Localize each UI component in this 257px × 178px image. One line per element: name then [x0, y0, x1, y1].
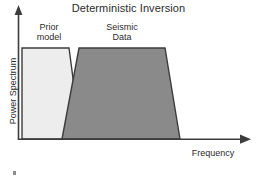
deterministic-inversion-figure: Deterministic Inversion Prior model Seis…	[0, 0, 257, 178]
y-axis-label: Power Spectrum	[8, 41, 18, 141]
x-axis-label: Frequency	[176, 148, 250, 158]
seismic-data-area	[62, 48, 180, 139]
figure-title: Deterministic Inversion	[0, 2, 257, 14]
scan-artifact-speck	[13, 171, 16, 175]
x-axis-arrow-icon	[240, 135, 251, 144]
prior-model-label: Prior model	[22, 22, 76, 42]
seismic-data-label: Seismic Data	[92, 22, 152, 42]
